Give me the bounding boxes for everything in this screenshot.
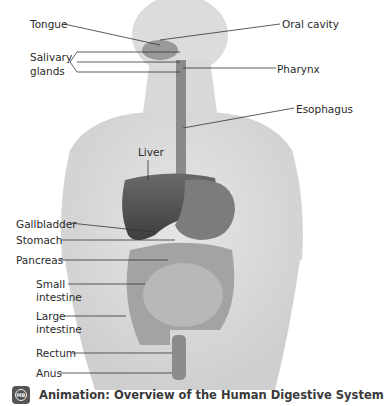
- label-pancreas: Pancreas: [16, 254, 63, 266]
- animation-icon: MB: [12, 386, 30, 404]
- label-anus: Anus: [36, 367, 62, 379]
- label-stomach: Stomach: [16, 234, 62, 246]
- label-rectum: Rectum: [36, 347, 76, 359]
- label-esophagus: Esophagus: [296, 103, 353, 115]
- label-salivary-glands-line2: glands: [30, 65, 65, 77]
- label-liver: Liver: [138, 146, 164, 158]
- label-salivary-glands-line1: Salivary: [30, 51, 72, 63]
- label-tongue: Tongue: [30, 18, 68, 30]
- label-oral-cavity: Oral cavity: [282, 18, 339, 30]
- label-gallbladder: Gallbladder: [16, 218, 77, 230]
- label-pharynx: Pharynx: [277, 63, 320, 75]
- animation-caption: Animation: Overview of the Human Digesti…: [39, 388, 384, 402]
- label-large-intestine-line1: Large: [36, 310, 66, 322]
- animation-link[interactable]: MB Animation: Overview of the Human Dige…: [12, 386, 384, 404]
- label-small-intestine-line1: Small: [36, 278, 65, 290]
- label-small-intestine-line2: intestine: [36, 291, 82, 303]
- label-large-intestine-line2: intestine: [36, 323, 82, 335]
